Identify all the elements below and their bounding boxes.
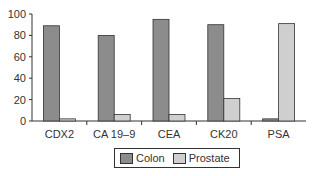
bar-prostate [59,119,75,121]
y-tick-label: 80 [14,29,26,41]
bar-prostate [224,99,240,121]
legend-label-prostate: Prostate [189,152,230,164]
bar-colon [153,19,169,121]
bar-chart: 020406080100CDX2CA 19–9CEACK20PSA [0,0,313,145]
y-tick-label: 40 [14,72,26,84]
bar-prostate [114,115,130,121]
y-tick-label: 60 [14,51,26,63]
x-tick-label: CK20 [210,128,238,140]
legend-label-colon: Colon [136,152,165,164]
legend-item-prostate: Prostate [173,152,230,164]
y-tick-label: 100 [8,8,26,20]
y-tick-label: 0 [20,115,26,127]
legend-item-colon: Colon [120,152,165,164]
legend-swatch-colon [120,153,133,164]
legend-swatch-prostate [173,153,186,164]
bar-colon [43,26,59,121]
bar-colon [98,35,114,121]
bar-colon [263,119,279,121]
x-tick-label: CA 19–9 [93,128,135,140]
chart-legend: Colon Prostate [114,148,240,168]
y-tick-label: 20 [14,94,26,106]
bar-prostate [279,24,295,121]
bar-colon [208,25,224,121]
x-tick-label: CDX2 [45,128,74,140]
x-tick-label: PSA [268,128,291,140]
x-tick-label: CEA [158,128,181,140]
bar-prostate [169,115,185,121]
